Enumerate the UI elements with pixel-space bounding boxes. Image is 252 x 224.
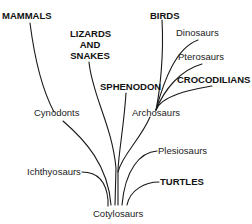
branch-ichthyosaurs xyxy=(82,172,108,206)
label-sphenodon: SPHENODON xyxy=(100,81,161,92)
label-lizards-and-snakes: LIZARDS AND SNAKES xyxy=(70,28,110,61)
branch-birds xyxy=(156,20,163,110)
branch-turtles xyxy=(127,182,159,205)
label-mammals: MAMMALS xyxy=(2,10,52,21)
label-dinosaurs: Dinosaurs xyxy=(176,27,219,38)
label-crocodilians: CROCODILIANS xyxy=(177,74,250,85)
label-and: AND xyxy=(70,39,110,50)
label-snakes: SNAKES xyxy=(70,50,110,61)
branch-plesiosaurs xyxy=(122,151,157,205)
branch-cynodonts xyxy=(63,121,111,205)
label-archosaurs: Archosaurs xyxy=(132,107,180,118)
label-ichthyosaurs: Ichthyosaurs xyxy=(27,166,81,177)
label-pterosaurs: Pterosaurs xyxy=(178,51,224,62)
label-cynodonts: Cynodonts xyxy=(34,107,79,118)
branch-mammals xyxy=(30,23,54,112)
label-birds: BIRDS xyxy=(150,10,180,21)
label-cotylosaurs: Cotylosaurs xyxy=(93,208,143,219)
label-turtles: TURTLES xyxy=(160,176,204,187)
label-lizards: LIZARDS xyxy=(70,28,110,39)
label-plesiosaurs: Plesiosaurs xyxy=(158,145,207,156)
